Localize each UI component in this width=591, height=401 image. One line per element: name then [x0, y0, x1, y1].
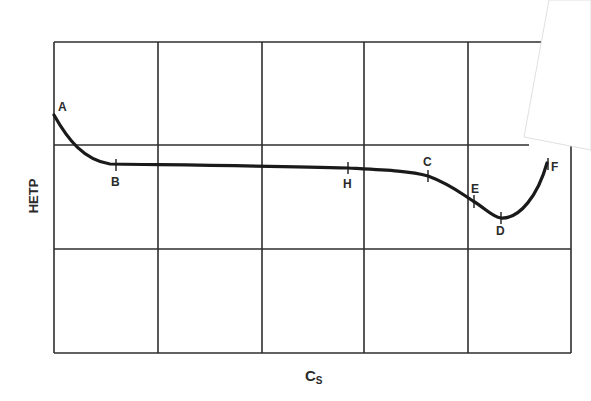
hetp-curve	[54, 115, 547, 218]
label-b: B	[111, 175, 120, 189]
label-c: C	[423, 155, 432, 169]
x-axis-title-main: C	[305, 367, 316, 384]
y-axis-title: HETP	[26, 178, 41, 213]
label-f: F	[551, 160, 558, 174]
label-e: E	[471, 182, 479, 196]
hetp-chart: A B H C E D F HETP CS	[0, 0, 591, 401]
x-axis-title-sub: S	[316, 375, 323, 386]
label-h: H	[343, 177, 352, 191]
label-d: D	[496, 224, 505, 238]
paper-fold-overlay	[524, 0, 591, 150]
grid	[54, 42, 571, 353]
label-a: A	[58, 100, 67, 114]
x-axis-title: CS	[305, 367, 323, 386]
